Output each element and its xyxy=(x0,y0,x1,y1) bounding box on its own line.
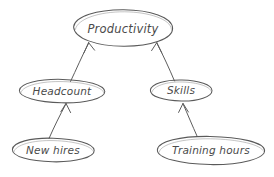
arrowhead-icon xyxy=(152,43,162,53)
node-label-productivity: Productivity xyxy=(87,22,158,36)
edge-training-hours-to-skills[interactable] xyxy=(179,103,197,136)
edge-headcount-to-productivity[interactable] xyxy=(71,43,95,82)
node-training-hours[interactable]: Training hours xyxy=(157,136,264,164)
node-skills[interactable]: Skills xyxy=(150,80,212,101)
node-productivity[interactable]: Productivity xyxy=(74,10,173,46)
diagram-canvas: Productivity Headcount Skills New hires xyxy=(0,0,274,177)
edge-line xyxy=(49,104,66,138)
node-label-headcount: Headcount xyxy=(33,85,93,97)
node-group: Productivity Headcount Skills New hires xyxy=(12,10,264,165)
node-label-skills: Skills xyxy=(167,84,195,96)
node-label-training-hours: Training hours xyxy=(172,144,250,156)
node-label-new-hires: New hires xyxy=(26,144,80,156)
node-headcount[interactable]: Headcount xyxy=(19,79,104,103)
arrowhead-icon xyxy=(179,103,189,112)
arrowhead-icon xyxy=(84,43,95,53)
edge-new-hires-to-headcount[interactable] xyxy=(49,103,71,138)
edge-skills-to-productivity[interactable] xyxy=(152,43,175,81)
causal-diagram: Productivity Headcount Skills New hires xyxy=(0,0,274,177)
node-new-hires[interactable]: New hires xyxy=(12,138,94,162)
edge-line xyxy=(183,104,197,136)
